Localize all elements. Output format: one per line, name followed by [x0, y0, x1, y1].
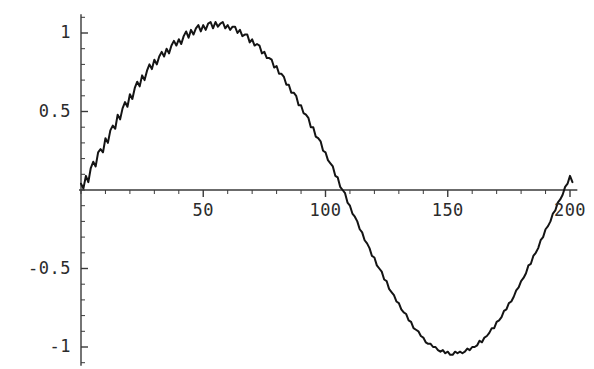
x-axis-ticks — [81, 190, 570, 197]
y-axis-tick-label: -1 — [50, 338, 71, 355]
chart-canvas: 10.5-0.5-150100150200 — [0, 0, 594, 369]
y-axis-tick-label: 0.5 — [39, 103, 71, 120]
noisy-sine-plot — [0, 0, 594, 369]
y-axis-tick-label: 1 — [60, 24, 71, 41]
data-series-line — [81, 22, 572, 355]
x-axis-tick-label: 50 — [163, 202, 243, 219]
x-axis-tick-label: 150 — [408, 202, 488, 219]
y-axis-tick-label: -0.5 — [28, 260, 71, 277]
x-axis-tick-label: 100 — [286, 202, 366, 219]
x-axis-tick-label: 200 — [530, 202, 594, 219]
